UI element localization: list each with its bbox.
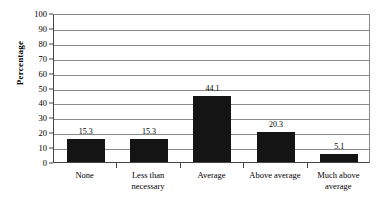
y-tick-label: 30 <box>39 114 48 123</box>
x-category-label: Above average <box>249 170 300 181</box>
y-tick-label: 100 <box>34 10 47 19</box>
plot-area: 15.315.344.120.35.1 <box>53 14 370 163</box>
x-category-label-line: Above average <box>249 170 300 180</box>
bar <box>320 154 358 162</box>
bar-slot: 5.1 <box>308 15 371 162</box>
y-tick-label: 50 <box>39 84 48 93</box>
x-category-label: None <box>75 170 93 181</box>
y-tick-label: 80 <box>39 40 48 49</box>
bar <box>67 139 105 162</box>
bar <box>130 139 168 162</box>
x-axis-labels: NoneLess thannecessaryAverageAbove avera… <box>53 170 370 198</box>
bar <box>193 96 231 162</box>
x-category-label-line: Much above <box>317 170 359 180</box>
bar-slot: 15.3 <box>54 15 117 162</box>
bar <box>257 132 295 162</box>
x-category-label: Average <box>197 170 225 181</box>
x-category-label-line: necessary <box>132 181 165 192</box>
y-tick-label: 40 <box>39 99 48 108</box>
bar-slot: 44.1 <box>181 15 244 162</box>
bar-slot: 15.3 <box>117 15 180 162</box>
bar-value-label: 5.1 <box>334 143 344 151</box>
x-axis-ticks <box>53 163 370 169</box>
y-tick-label: 90 <box>39 25 48 34</box>
bars-layer: 15.315.344.120.35.1 <box>54 15 369 162</box>
x-tick-mark <box>243 163 244 168</box>
y-tick-label: 0 <box>43 159 47 168</box>
bar-value-label: 44.1 <box>205 85 219 93</box>
bar-slot: 20.3 <box>244 15 307 162</box>
y-tick-label: 70 <box>39 54 48 63</box>
x-category-label-line: average <box>317 181 359 192</box>
x-category-label-line: Average <box>197 170 225 180</box>
x-category-label-line: Less than <box>132 170 164 180</box>
bar-value-label: 15.3 <box>79 128 93 136</box>
y-tick-label: 10 <box>39 144 48 153</box>
x-tick-mark <box>116 163 117 168</box>
bar-chart: Percentage 1009080706050403020100 15.315… <box>0 0 383 201</box>
x-category-label: Much aboveaverage <box>317 170 359 192</box>
x-category-label: Less thannecessary <box>132 170 165 192</box>
y-tick-label: 60 <box>39 69 48 78</box>
x-category-label-line: None <box>75 170 93 180</box>
y-axis-ticks: 1009080706050403020100 <box>0 14 53 163</box>
bar-value-label: 20.3 <box>269 121 283 129</box>
x-tick-mark <box>307 163 308 168</box>
y-tick-label: 20 <box>39 129 48 138</box>
x-tick-mark <box>180 163 181 168</box>
bar-value-label: 15.3 <box>142 128 156 136</box>
